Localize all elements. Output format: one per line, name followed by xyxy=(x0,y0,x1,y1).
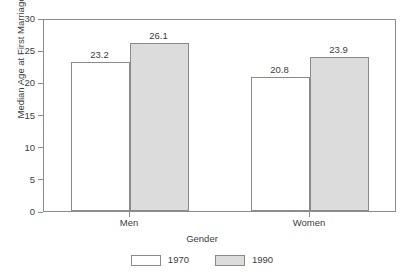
legend-swatch xyxy=(215,255,245,266)
y-tick-label: 5 xyxy=(30,173,35,186)
x-axis-title: Gender xyxy=(0,232,404,245)
bar xyxy=(251,77,310,211)
bar-value-label: 26.1 xyxy=(129,30,188,42)
y-tick-label: 0 xyxy=(30,205,35,218)
y-tick-label: 30 xyxy=(24,12,35,25)
bar-value-label: 23.9 xyxy=(309,44,368,56)
bar-chart: Median Age at First Marriage 05101520253… xyxy=(0,0,404,272)
bar xyxy=(310,57,369,211)
x-category-label: Women xyxy=(259,216,359,229)
bar-value-label: 23.2 xyxy=(70,49,129,61)
legend-swatch xyxy=(131,255,161,266)
y-tick-label: 20 xyxy=(24,76,35,89)
bar xyxy=(71,62,130,211)
legend-label: 1970 xyxy=(168,254,189,266)
bar-value-label: 20.8 xyxy=(250,64,309,76)
y-tick-label: 25 xyxy=(24,44,35,57)
bar xyxy=(130,43,189,211)
legend-item: 1970 xyxy=(131,254,189,266)
chart-legend: 19701990 xyxy=(0,254,404,266)
legend-item: 1990 xyxy=(215,254,273,266)
legend-label: 1990 xyxy=(252,254,273,266)
y-tick-label: 10 xyxy=(24,141,35,154)
y-tick-label: 15 xyxy=(24,109,35,122)
x-category-label: Men xyxy=(79,216,179,229)
